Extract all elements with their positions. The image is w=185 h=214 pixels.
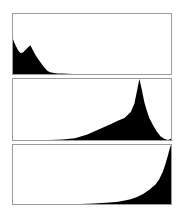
histogram-bright-plot — [13, 145, 171, 204]
histogram-peaked — [12, 78, 172, 141]
histogram-dark-area — [13, 39, 171, 74]
histogram-bright — [12, 144, 172, 205]
histogram-peaked-plot — [13, 79, 171, 140]
histogram-dark-plot — [13, 14, 171, 74]
histogram-peaked-area — [13, 79, 171, 140]
histogram-dark — [12, 13, 172, 75]
histogram-bright-area — [13, 145, 171, 204]
